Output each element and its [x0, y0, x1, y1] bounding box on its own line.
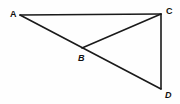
- segment-ac: [20, 14, 161, 15]
- vertex-label-d: D: [165, 91, 172, 100]
- segment-bc: [82, 14, 161, 48]
- vertex-label-b: B: [78, 54, 85, 63]
- segment-ad: [20, 15, 161, 89]
- vertex-label-c: C: [166, 7, 173, 16]
- geometry-figure: A B C D: [0, 0, 180, 104]
- vertex-label-a: A: [10, 10, 17, 19]
- figure-canvas: [0, 0, 180, 104]
